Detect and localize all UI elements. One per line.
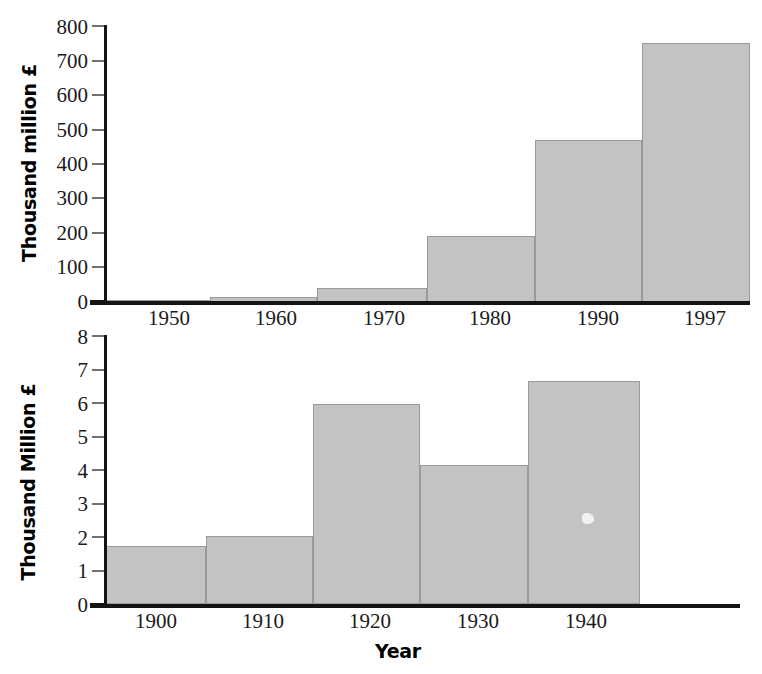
- bar: [206, 536, 313, 604]
- bottom-xtick-label: 1910: [213, 609, 313, 634]
- bottom-xtick-label: 1940: [536, 609, 636, 634]
- bottom-chart-panel: Thousand Million £ 8 7 6 5 4 3 2 1 0 19: [0, 325, 762, 674]
- bottom-ytick-label: 8: [38, 325, 88, 350]
- top-ytick-label: 200: [22, 221, 88, 246]
- bar: [317, 288, 427, 302]
- top-chart-panel: Thousand million £ 800 700 600 500 400 3…: [0, 0, 762, 325]
- top-ytick-label: 600: [22, 83, 88, 108]
- top-ytick-label: 400: [22, 152, 88, 177]
- top-y-axis-line: [104, 25, 107, 304]
- top-ytick-label: 300: [22, 186, 88, 211]
- dual-bar-chart-figure: Thousand million £ 800 700 600 500 400 3…: [0, 0, 762, 674]
- bottom-y-axis-line: [104, 335, 107, 607]
- bottom-ytick-label: 3: [38, 492, 88, 517]
- bottom-x-axis-line: [90, 604, 740, 608]
- top-ytick-label: 100: [22, 255, 88, 280]
- bar: [528, 381, 640, 604]
- bottom-ytick-label: 2: [38, 526, 88, 551]
- top-ytick-label: 800: [22, 15, 88, 40]
- bar: [427, 236, 535, 302]
- bar: [642, 43, 750, 302]
- top-ytick-label: 500: [22, 118, 88, 143]
- bottom-ytick-label: 4: [38, 459, 88, 484]
- bottom-ytick-label: 6: [38, 392, 88, 417]
- bottom-x-axis-title: Year: [343, 640, 453, 662]
- bottom-xtick-label: 1900: [106, 609, 206, 634]
- top-x-axis-line: [90, 301, 750, 305]
- bottom-ytick-label: 5: [38, 425, 88, 450]
- scan-artifact-speck: [582, 513, 594, 524]
- top-ytick-label: 700: [22, 49, 88, 74]
- bar: [105, 546, 206, 604]
- bar: [313, 404, 420, 604]
- bottom-ytick-label: 1: [38, 559, 88, 584]
- bottom-xtick-label: 1920: [320, 609, 420, 634]
- top-ytick-label: 0: [22, 290, 88, 315]
- bottom-y-axis-title: Thousand Million £: [17, 337, 39, 627]
- bottom-ytick-label: 7: [38, 358, 88, 383]
- bar: [535, 140, 642, 302]
- bottom-xtick-label: 1930: [428, 609, 528, 634]
- bar: [420, 465, 528, 604]
- bottom-ytick-label: 0: [38, 593, 88, 618]
